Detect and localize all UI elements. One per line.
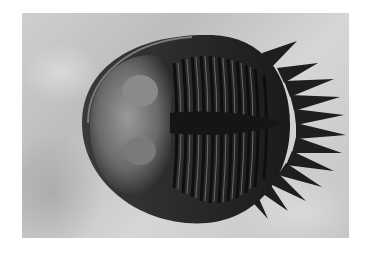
eye-lobe [124, 137, 156, 165]
trilobite-fossil [22, 13, 349, 238]
glabella-lobe [122, 75, 158, 107]
trilobite-photo [22, 13, 349, 238]
